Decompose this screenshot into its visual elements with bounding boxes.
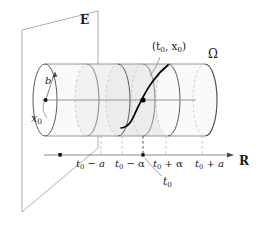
picard-lindelof-diagram: E Ω R b x0 (t0, x0) t0 t0 − a t0 − α t0 … bbox=[0, 0, 264, 236]
initial-value-dot-x0 bbox=[43, 98, 47, 102]
axis-origin-dot bbox=[58, 153, 61, 157]
callout-label-t0: t0 bbox=[163, 176, 172, 188]
initial-point-dot bbox=[140, 97, 145, 102]
initial-value-label-x0: x0 bbox=[31, 113, 42, 126]
domain-label-omega: Ω bbox=[208, 48, 218, 60]
plane-label-E: E bbox=[80, 14, 89, 26]
axis-tick-label-t0-minus-a: t0 − a bbox=[76, 159, 105, 171]
axis-label-R: R bbox=[239, 155, 249, 167]
axis-tick-label-t0-minus-alpha: t0 − α bbox=[115, 159, 145, 171]
axis-center-dot-t0 bbox=[141, 153, 144, 156]
axis-tick-label-t0-plus-a: t0 + a bbox=[195, 159, 224, 171]
radius-label-b: b bbox=[45, 76, 51, 86]
axis-tick-label-t0-plus-alpha: t0 + α bbox=[153, 159, 183, 171]
real-axis-arrowhead bbox=[227, 152, 234, 157]
initial-condition-label: (t0, x0) bbox=[152, 41, 186, 53]
